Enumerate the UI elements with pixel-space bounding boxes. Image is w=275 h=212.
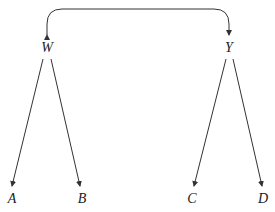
node-b: B [78, 192, 87, 206]
node-y: Y [225, 41, 233, 55]
node-c: C [187, 192, 196, 206]
edge-y-c [194, 59, 226, 186]
diagram-canvas [0, 0, 275, 212]
edge-y-d [233, 59, 262, 186]
node-w: W [41, 41, 53, 55]
node-d: D [258, 192, 268, 206]
edge-w-a [12, 59, 43, 186]
edge-w-y-bidirectional [47, 9, 229, 35]
edge-w-b [51, 59, 80, 186]
node-a: A [8, 192, 17, 206]
